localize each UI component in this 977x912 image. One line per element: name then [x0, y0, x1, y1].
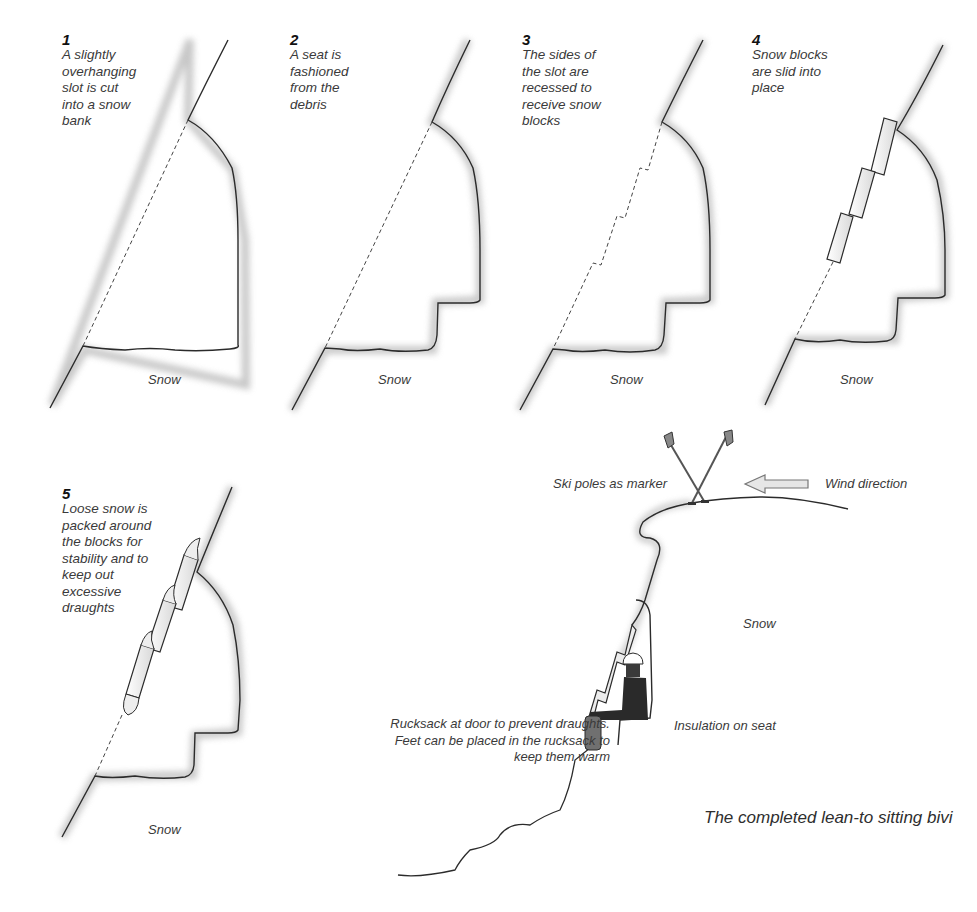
step-text-line: overhanging [62, 64, 136, 81]
rucksack-label-line: keep them warm [390, 749, 610, 766]
snow-label-4: Snow [840, 372, 873, 387]
step-text-line: recessed to [522, 80, 601, 97]
step-text-line: excessive [62, 584, 151, 601]
diagram-artwork [0, 0, 977, 912]
step-3-caption: 3 The sides of the slot are recessed to … [522, 32, 601, 130]
step-text-line: Snow blocks [752, 47, 828, 64]
snow-label-5: Snow [148, 822, 181, 837]
step-text-line: The sides of [522, 47, 601, 64]
step-number: 4 [752, 32, 828, 47]
step-number: 1 [62, 32, 136, 47]
step-text-line: are slid into [752, 64, 828, 81]
panel-4-drawing [765, 45, 945, 405]
step-number: 5 [62, 486, 151, 501]
diagram-title: The completed lean-to sitting bivi [704, 808, 953, 828]
rucksack-label-line: Rucksack at door to prevent draughts. [390, 716, 610, 733]
step-text-line: bank [62, 113, 136, 130]
step-text-line: packed around [62, 518, 151, 535]
step-text-line: receive snow [522, 97, 601, 114]
snow-label-3: Snow [610, 372, 643, 387]
step-4-caption: 4 Snow blocks are slid into place [752, 32, 828, 97]
snow-blocks [827, 118, 897, 263]
snow-label-completed: Snow [743, 616, 776, 631]
step-text-line: A slightly [62, 47, 136, 64]
step-text-line: the slot are [522, 64, 601, 81]
step-number: 2 [290, 32, 349, 47]
insulation-label: Insulation on seat [674, 718, 776, 733]
step-text-line: draughts [62, 600, 151, 617]
step-text-line: Loose snow is [62, 501, 151, 518]
step-text-line: slot is cut [62, 80, 136, 97]
wind-direction-label: Wind direction [825, 476, 907, 491]
snow-label-2: Snow [378, 372, 411, 387]
step-number: 3 [522, 32, 601, 47]
step-text-line: place [752, 80, 828, 97]
ski-poles [664, 430, 733, 505]
ski-poles-label: Ski poles as marker [553, 476, 667, 491]
rucksack-label-line: Feet can be placed in the rucksack to [390, 733, 610, 750]
step-text-line: blocks [522, 113, 601, 130]
step-text-line: debris [290, 97, 349, 114]
wind-arrow-icon [745, 475, 808, 493]
snow-label-1: Snow [148, 372, 181, 387]
step-text-line: into a snow [62, 97, 136, 114]
step-text-line: stability and to [62, 551, 151, 568]
step-text-line: the blocks for [62, 534, 151, 551]
step-text-line: from the [290, 80, 349, 97]
step-text-line: fashioned [290, 64, 349, 81]
step-5-caption: 5 Loose snow is packed around the blocks… [62, 486, 151, 617]
step-text-line: keep out [62, 567, 151, 584]
step-text-line: A seat is [290, 47, 349, 64]
step-2-caption: 2 A seat is fashioned from the debris [290, 32, 349, 113]
rucksack-label: Rucksack at door to prevent draughts. Fe… [390, 716, 610, 766]
step-1-caption: 1 A slightly overhanging slot is cut int… [62, 32, 136, 130]
